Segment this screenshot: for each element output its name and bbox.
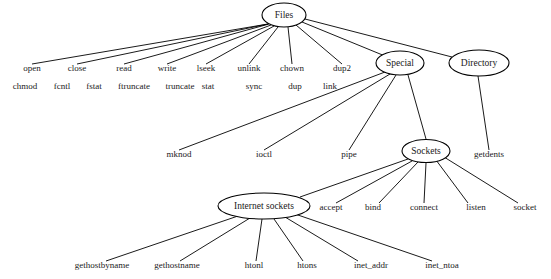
system-call-tree-diagram: FilesSpecialDirectorySocketsInternet soc… — [0, 0, 551, 279]
leaf-label-gethostbyname[interactable]: gethostbyname — [75, 260, 130, 270]
leaf-label-connect[interactable]: connect — [410, 202, 438, 212]
diagram-background — [0, 0, 551, 279]
leaf-label-lseek[interactable]: lseek — [197, 63, 216, 73]
node-label-internet_sockets: Internet sockets — [234, 201, 294, 211]
leaf-label-gethostname[interactable]: gethostname — [154, 260, 200, 270]
leaf-label-ftruncate[interactable]: ftruncate — [118, 81, 150, 91]
leaf-label-ioctl[interactable]: ioctl — [256, 149, 272, 159]
node-label-sockets: Sockets — [411, 146, 441, 156]
node-label-files: Files — [275, 10, 294, 20]
leaf-label-pipe[interactable]: pipe — [341, 149, 357, 159]
leaf-label-close[interactable]: close — [68, 63, 87, 73]
node-directory[interactable]: Directory — [449, 50, 509, 76]
leaf-label-fstat[interactable]: fstat — [86, 81, 102, 91]
leaf-label-htonl[interactable]: htonl — [245, 260, 264, 270]
leaf-label-bind[interactable]: bind — [365, 202, 382, 212]
leaf-label-link[interactable]: link — [323, 81, 338, 91]
leaf-label-open[interactable]: open — [23, 63, 41, 73]
leaf-label-listen[interactable]: listen — [466, 202, 486, 212]
node-label-directory: Directory — [461, 58, 498, 68]
leaf-label-chmod[interactable]: chmod — [13, 81, 38, 91]
leaf-label-write[interactable]: write — [158, 63, 177, 73]
node-sockets[interactable]: Sockets — [402, 140, 450, 163]
leaf-label-truncate[interactable]: truncate — [166, 81, 195, 91]
leaf-label-accept[interactable]: accept — [320, 202, 343, 212]
leaf-label-sync[interactable]: sync — [246, 81, 263, 91]
leaf-label-unlink[interactable]: unlink — [237, 63, 261, 73]
leaf-label-dup2[interactable]: dup2 — [333, 63, 351, 73]
node-label-special: Special — [386, 58, 414, 68]
leaf-label-inet_addr[interactable]: inet_addr — [354, 260, 388, 270]
leaf-label-fcntl[interactable]: fcntl — [54, 81, 71, 91]
leaf-label-getdents[interactable]: getdents — [474, 149, 504, 159]
leaf-label-htons[interactable]: htons — [297, 260, 317, 270]
leaf-label-mknod[interactable]: mknod — [166, 149, 192, 159]
leaf-label-read[interactable]: read — [116, 63, 132, 73]
node-internet_sockets[interactable]: Internet sockets — [218, 193, 310, 219]
leaf-label-inet_ntoa[interactable]: inet_ntoa — [425, 260, 459, 270]
leaf-label-socket[interactable]: socket — [514, 202, 537, 212]
node-special[interactable]: Special — [376, 51, 424, 75]
node-files[interactable]: Files — [262, 3, 306, 27]
leaf-label-dup[interactable]: dup — [288, 81, 302, 91]
leaf-label-chown[interactable]: chown — [280, 63, 304, 73]
leaf-label-stat[interactable]: stat — [202, 81, 215, 91]
